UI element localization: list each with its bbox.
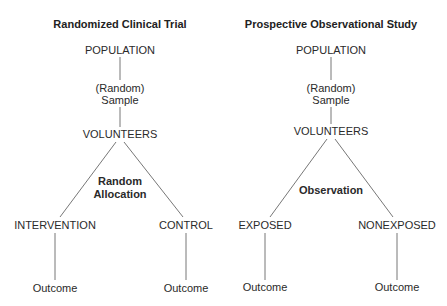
rct-outcome-right: Outcome bbox=[164, 282, 209, 294]
rct-title: Randomized Clinical Trial bbox=[53, 18, 186, 30]
obs-nonexposed: NONEXPOSED bbox=[358, 219, 436, 231]
rct-intervention: INTERVENTION bbox=[14, 219, 96, 231]
obs-title: Prospective Observational Study bbox=[245, 18, 417, 30]
rct-method-line1: Random bbox=[98, 175, 142, 187]
obs-method: Observation bbox=[299, 184, 363, 196]
rct-outcome-left: Outcome bbox=[33, 282, 78, 294]
rct-volunteers: VOLUNTEERS bbox=[83, 128, 158, 140]
rct-population: POPULATION bbox=[85, 44, 155, 56]
rct-sample-line2: Sample bbox=[101, 94, 138, 106]
obs-volunteers: VOLUNTEERS bbox=[294, 125, 369, 137]
obs-sample-line1: (Random) bbox=[307, 82, 356, 94]
connector-lines bbox=[0, 0, 447, 306]
rct-control: CONTROL bbox=[159, 219, 213, 231]
obs-sample-line2: Sample bbox=[312, 94, 349, 106]
obs-outcome-right: Outcome bbox=[375, 281, 420, 293]
line-volunteers-exposed bbox=[270, 139, 327, 217]
line-volunteers-nonexposed bbox=[335, 139, 393, 217]
obs-population: POPULATION bbox=[296, 44, 366, 56]
rct-method-line2: Allocation bbox=[93, 188, 146, 200]
rct-sample-line1: (Random) bbox=[96, 82, 145, 94]
obs-exposed: EXPOSED bbox=[238, 219, 291, 231]
obs-outcome-left: Outcome bbox=[243, 281, 288, 293]
